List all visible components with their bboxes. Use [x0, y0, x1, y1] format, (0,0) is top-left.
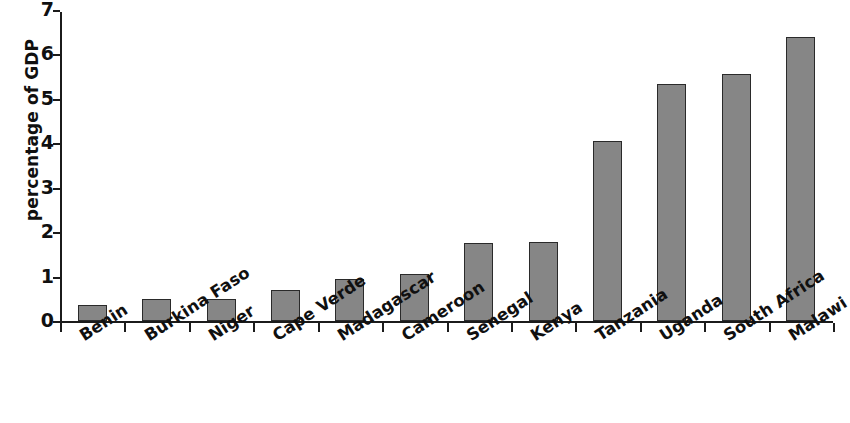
- y-axis-tick-label: 6: [41, 42, 54, 64]
- plot-area: 01234567: [60, 12, 833, 323]
- x-axis-tick-mark: [833, 323, 835, 332]
- y-axis-tick-mark: [53, 277, 60, 279]
- y-axis-tick-label: 4: [41, 131, 54, 153]
- y-axis-tick-label: 0: [41, 309, 54, 331]
- y-axis-tick-label: 1: [41, 265, 54, 287]
- y-axis-tick-label: 7: [41, 0, 54, 20]
- y-axis-tick-label: 3: [41, 176, 54, 198]
- y-axis-tick-mark: [53, 188, 60, 190]
- x-axis-labels: BeninBurkina FasoNigerCape VerdeMadagasc…: [60, 325, 833, 423]
- y-axis-line: [60, 12, 62, 323]
- y-axis-tick-mark: [53, 232, 60, 234]
- bar: [722, 74, 751, 321]
- y-axis-title: percentage of GDP: [22, 20, 42, 240]
- y-axis-tick-mark: [53, 99, 60, 101]
- y-axis-tick-mark: [53, 321, 60, 323]
- y-axis-tick-mark: [53, 10, 60, 12]
- y-axis-tick-label: 5: [41, 87, 54, 109]
- bar: [593, 141, 622, 321]
- bar: [529, 242, 558, 321]
- y-axis-tick-label: 2: [41, 220, 54, 242]
- y-axis-tick-mark: [53, 143, 60, 145]
- y-axis-tick-mark: [53, 54, 60, 56]
